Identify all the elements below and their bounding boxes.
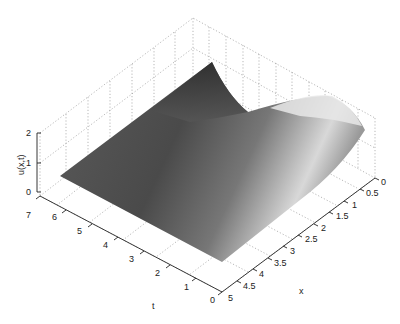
svg-text:7: 7 <box>26 210 31 220</box>
z-tick-labels: 2 1 0 <box>26 128 31 197</box>
plot-canvas: 2 1 0 u(x,t) 7 6 5 4 3 2 1 0 t 0 0.5 1 1… <box>0 0 400 324</box>
svg-text:4: 4 <box>103 240 108 250</box>
svg-text:4: 4 <box>259 269 264 279</box>
svg-text:5: 5 <box>77 226 82 236</box>
svg-text:1.5: 1.5 <box>336 211 349 221</box>
svg-text:3: 3 <box>129 254 134 264</box>
svg-text:0: 0 <box>26 187 31 197</box>
svg-text:4.5: 4.5 <box>243 281 256 291</box>
surface <box>60 62 365 262</box>
svg-text:0.5: 0.5 <box>366 188 379 198</box>
svg-text:6: 6 <box>52 212 57 222</box>
svg-text:2: 2 <box>155 268 160 278</box>
svg-text:1: 1 <box>184 282 189 292</box>
svg-text:2: 2 <box>321 223 326 233</box>
svg-text:3.5: 3.5 <box>274 258 287 268</box>
svg-text:1: 1 <box>352 200 357 210</box>
t-axis-label: t <box>152 301 155 311</box>
x-axis-label: x <box>299 286 304 296</box>
z-axis-label: u(x,t) <box>16 154 26 175</box>
svg-text:2: 2 <box>26 128 31 138</box>
svg-text:5: 5 <box>228 293 233 303</box>
surface-plot: 2 1 0 u(x,t) 7 6 5 4 3 2 1 0 t 0 0.5 1 1… <box>0 0 400 324</box>
svg-text:0: 0 <box>381 177 386 187</box>
svg-text:3: 3 <box>290 246 295 256</box>
svg-text:0: 0 <box>210 295 215 305</box>
svg-text:2.5: 2.5 <box>305 234 318 244</box>
svg-text:1: 1 <box>26 158 31 168</box>
